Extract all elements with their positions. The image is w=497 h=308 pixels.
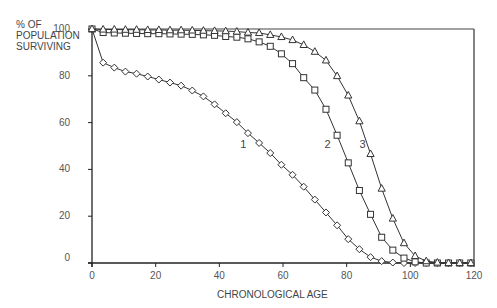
- diamond-marker: [100, 59, 107, 66]
- square-marker: [234, 34, 240, 40]
- y-tick-label: 80: [59, 70, 71, 81]
- curve-label-2: 2: [325, 138, 331, 150]
- triangle-marker: [311, 48, 318, 55]
- x-tick-label: 0: [89, 270, 95, 281]
- triangle-marker: [322, 56, 329, 63]
- curve-label-3: 3: [360, 138, 366, 150]
- x-tick-label: 20: [150, 270, 162, 281]
- square-marker: [267, 43, 273, 49]
- square-marker: [401, 255, 407, 261]
- x-tick-label: 80: [341, 270, 353, 281]
- square-marker: [312, 87, 318, 93]
- square-marker: [379, 234, 385, 240]
- diamond-marker: [133, 70, 140, 77]
- triangle-marker: [367, 150, 374, 157]
- triangle-marker: [189, 26, 196, 33]
- survival-chart: 020406080100120020406080100123: [0, 0, 497, 308]
- triangle-marker: [211, 27, 218, 34]
- x-tick-label: 100: [402, 270, 419, 281]
- x-tick-label: 120: [466, 270, 483, 281]
- diamond-marker: [367, 254, 374, 261]
- square-marker: [390, 247, 396, 253]
- x-tick-label: 40: [214, 270, 226, 281]
- curve-label-1: 1: [240, 138, 246, 150]
- square-marker: [345, 160, 351, 166]
- x-tick-label: 60: [277, 270, 289, 281]
- diamond-marker: [178, 82, 185, 89]
- diamond-marker: [144, 73, 151, 80]
- square-marker: [278, 51, 284, 57]
- diamond-marker: [166, 79, 173, 86]
- triangle-marker: [400, 239, 407, 246]
- diamond-marker: [122, 68, 129, 75]
- square-marker: [245, 36, 251, 42]
- triangle-marker: [222, 27, 229, 34]
- diamond-marker: [389, 259, 396, 266]
- y-tick-label: 0: [64, 252, 70, 263]
- square-marker: [334, 132, 340, 138]
- diamond-marker: [111, 64, 118, 71]
- diamond-marker: [200, 93, 207, 100]
- y-tick-label: 20: [59, 210, 71, 221]
- y-tick-label: 40: [59, 163, 71, 174]
- diamond-marker: [189, 87, 196, 94]
- triangle-marker: [200, 27, 207, 34]
- square-marker: [356, 187, 362, 193]
- triangle-marker: [378, 185, 385, 192]
- square-marker: [301, 75, 307, 81]
- square-marker: [412, 259, 418, 265]
- square-marker: [323, 106, 329, 112]
- series-1-line: [92, 29, 471, 263]
- triangle-marker: [345, 91, 352, 98]
- series-2-line: [92, 29, 471, 263]
- triangle-marker: [256, 29, 263, 36]
- square-marker: [290, 61, 296, 67]
- triangle-marker: [389, 215, 396, 222]
- square-marker: [368, 211, 374, 217]
- diamond-marker: [155, 76, 162, 83]
- square-marker: [256, 39, 262, 45]
- square-marker: [223, 33, 229, 39]
- y-tick-label: 100: [53, 23, 70, 34]
- y-tick-label: 60: [59, 117, 71, 128]
- series-3-line: [92, 29, 471, 263]
- triangle-marker: [356, 117, 363, 124]
